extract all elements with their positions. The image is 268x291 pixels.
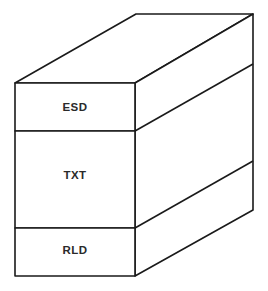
section-esd: ESD [15,83,135,131]
section-label-txt: TXT [63,169,86,181]
section-label-rld: RLD [62,244,87,256]
section-rld: RLD [15,228,135,276]
section-label-esd: ESD [62,101,87,113]
section-txt: TXT [15,131,135,228]
object-module-diagram: ESD TXT RLD [0,0,268,291]
